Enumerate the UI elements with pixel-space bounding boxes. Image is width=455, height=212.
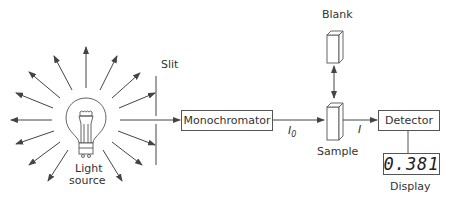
monochromator-box: Monochromator <box>181 110 273 131</box>
monochromator-label: Monochromator <box>184 114 271 127</box>
display-readout: 0.381 <box>383 153 440 175</box>
slit-label: Slit <box>161 59 178 71</box>
blank-label: Blank <box>322 9 353 21</box>
light-bulb-icon <box>66 98 106 158</box>
detector-box: Detector <box>378 110 440 131</box>
sample-label: Sample <box>317 146 358 158</box>
light-source-label-line2: source <box>69 175 106 187</box>
display-value: 0.381 <box>383 154 439 174</box>
blank-cuvette-icon <box>327 31 343 63</box>
i0-sub: 0 <box>291 130 296 139</box>
sample-cuvette-icon <box>327 103 343 140</box>
display-label: Display <box>390 181 431 193</box>
incident-intensity-label: I0 <box>288 125 296 141</box>
transmitted-intensity-label: I <box>358 124 361 136</box>
detector-label: Detector <box>385 114 433 127</box>
